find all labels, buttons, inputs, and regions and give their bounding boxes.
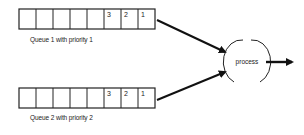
queue-2-cell-6: 3 — [107, 90, 111, 97]
queue-2-label: Queue 2 with priority 2 — [30, 114, 93, 121]
queue-2-cell-7: 2 — [124, 90, 128, 97]
queue-1-cell-6: 3 — [107, 11, 111, 18]
queue-1-cell-7: 2 — [124, 11, 128, 18]
queue-1-arrow — [157, 20, 225, 52]
process-label: process — [236, 58, 260, 66]
queue-2: 3 2 1 — [19, 88, 155, 108]
queue-1-label: Queue 1 with priority 1 — [30, 36, 93, 43]
queue-1: 3 2 1 — [19, 9, 155, 29]
queue-2-cell-8: 1 — [141, 90, 145, 97]
queue-1-cell-8: 1 — [141, 11, 145, 18]
queue-2-arrow — [157, 72, 225, 100]
process-node: process — [223, 40, 270, 82]
